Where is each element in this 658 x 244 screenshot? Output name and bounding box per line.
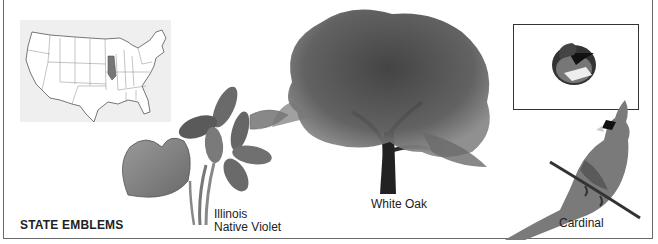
state-seal-icon (514, 25, 637, 108)
page-title: STATE EMBLEMS (20, 218, 124, 232)
oak-tree-icon (272, 2, 502, 197)
oak-label: White Oak (371, 198, 427, 211)
violet-label: Illinois Native Violet (214, 208, 281, 234)
cardinal-label: Cardinal (559, 217, 604, 230)
state-flag (513, 24, 639, 110)
violet-label-line2: Native Violet (214, 221, 281, 234)
